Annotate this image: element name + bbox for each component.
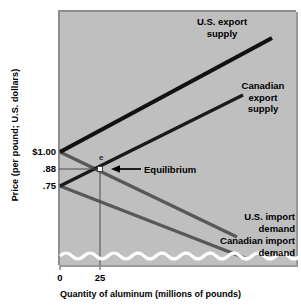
y-axis-title: Price (per pound; U.S. dollars) — [10, 35, 20, 235]
annotation-canadian-import-demand: Canadian import demand — [185, 235, 295, 258]
annotation-equilibrium-point: e — [99, 152, 103, 164]
annotation-us-import-demand: U.S. import demand — [215, 211, 295, 234]
xtick-label-0: 0 — [50, 272, 70, 283]
annotation-us-import-demand-line2: demand — [215, 223, 295, 235]
annotation-canadian-import-demand-line1: Canadian import — [185, 235, 295, 247]
annotation-canadian-import-demand-line2: demand — [185, 247, 295, 259]
ytick-label-0-75: .75 — [43, 181, 56, 191]
annotation-canadian-export-supply: Canadian export supply — [232, 80, 294, 115]
annotation-canadian-export-supply-line2: export — [232, 92, 294, 104]
chart-figure: $1.00 .88 .75 0 25 Price (per pound; U.S… — [0, 0, 301, 308]
annotation-us-export-supply-line2: supply — [183, 28, 261, 40]
annotation-us-export-supply: U.S. export supply — [183, 16, 261, 39]
annotation-us-export-supply-line1: U.S. export — [183, 16, 261, 28]
y-axis-tick-labels: $1.00 .88 .75 — [0, 0, 56, 308]
annotation-equilibrium: Equilibrium — [144, 164, 196, 176]
annotation-canadian-export-supply-line1: Canadian — [232, 80, 294, 92]
xtick-label-25: 25 — [90, 272, 110, 283]
annotation-canadian-export-supply-line3: supply — [232, 103, 294, 115]
ytick-label-1-00: $1.00 — [32, 147, 56, 157]
ytick-label-0-88: .88 — [43, 164, 56, 174]
x-axis-title: Quantity of aluminum (millions of pounds… — [0, 289, 301, 299]
annotation-us-import-demand-line1: U.S. import — [215, 211, 295, 223]
